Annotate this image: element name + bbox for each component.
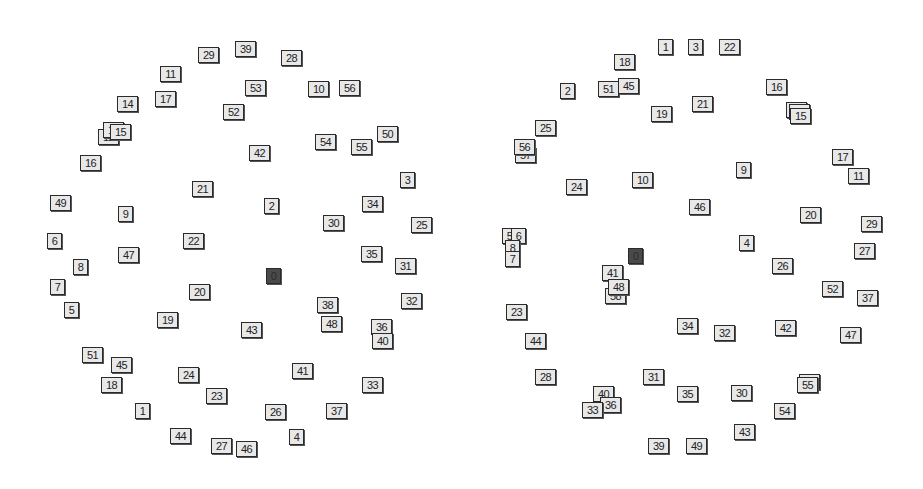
graph-node[interactable]: 40 [372, 333, 393, 349]
graph-node[interactable]: 33 [362, 377, 383, 393]
graph-node[interactable]: 45 [618, 78, 639, 94]
graph-node[interactable]: 26 [265, 404, 286, 420]
graph-node[interactable]: 6 [47, 233, 62, 249]
graph-node[interactable]: 32 [714, 325, 735, 341]
graph-node[interactable]: 15 [110, 124, 131, 140]
graph-node[interactable]: 10 [308, 81, 329, 97]
graph-node[interactable]: 31 [395, 258, 416, 274]
graph-node[interactable]: 18 [101, 377, 122, 393]
graph-node[interactable]: 28 [535, 369, 556, 385]
graph-node[interactable]: 22 [719, 39, 740, 55]
graph-node[interactable]: 39 [235, 41, 256, 57]
graph-node[interactable]: 51 [82, 347, 103, 363]
graph-node[interactable]: 30 [731, 385, 752, 401]
graph-node[interactable]: 19 [157, 312, 178, 328]
graph-node[interactable]: 50 [377, 126, 398, 142]
graph-node[interactable]: 1 [135, 403, 150, 419]
graph-node[interactable]: 16 [80, 155, 101, 171]
graph-node[interactable]: 23 [206, 388, 227, 404]
graph-node[interactable]: 26 [772, 258, 793, 274]
graph-node[interactable]: 49 [50, 195, 71, 211]
graph-node[interactable]: 21 [692, 96, 713, 112]
graph-node[interactable]: 9 [736, 162, 751, 178]
graph-node[interactable]: 10 [632, 172, 653, 188]
graph-node[interactable]: 20 [800, 207, 821, 223]
graph-node[interactable]: 44 [170, 428, 191, 444]
graph-node[interactable]: 3 [688, 39, 703, 55]
graph-node[interactable]: 52 [223, 104, 244, 120]
graph-node[interactable]: 56 [339, 80, 360, 96]
graph-node[interactable]: 47 [118, 247, 139, 263]
graph-node[interactable]: 30 [323, 215, 344, 231]
graph-node[interactable]: 54 [774, 403, 795, 419]
graph-node[interactable]: 8 [73, 259, 88, 275]
graph-node[interactable]: 7 [50, 279, 65, 295]
graph-node[interactable]: 31 [643, 369, 664, 385]
graph-node[interactable]: 17 [155, 91, 176, 107]
graph-node[interactable]: 27 [854, 243, 875, 259]
graph-node[interactable]: 34 [362, 196, 383, 212]
graph-node[interactable]: 55 [797, 377, 818, 393]
graph-node[interactable]: 51 [598, 81, 619, 97]
graph-node[interactable]: 3 [400, 172, 415, 188]
graph-node[interactable]: 54 [315, 134, 336, 150]
graph-node[interactable]: 48 [321, 316, 342, 332]
graph-node[interactable]: 36 [600, 397, 621, 413]
graph-node[interactable]: 1 [658, 39, 673, 55]
graph-node[interactable]: 16 [766, 79, 787, 95]
graph-node[interactable]: 53 [245, 80, 266, 96]
graph-node[interactable]: 25 [411, 217, 432, 233]
graph-node[interactable]: 41 [292, 363, 313, 379]
graph-node[interactable]: 35 [677, 386, 698, 402]
graph-node[interactable]: 25 [535, 120, 556, 136]
graph-node[interactable]: 38 [317, 297, 338, 313]
graph-node[interactable]: 11 [848, 168, 869, 184]
graph-node[interactable]: 34 [677, 318, 698, 334]
graph-node[interactable]: 18 [614, 54, 635, 70]
graph-node[interactable]: 4 [739, 235, 754, 251]
graph-node[interactable]: 52 [822, 281, 843, 297]
graph-node[interactable]: 29 [198, 47, 219, 63]
graph-node[interactable]: 2 [264, 198, 279, 214]
graph-node[interactable]: 24 [566, 179, 587, 195]
graph-node[interactable]: 15 [790, 108, 811, 124]
graph-node[interactable]: 17 [832, 149, 853, 165]
graph-node[interactable]: 43 [241, 322, 262, 338]
graph-node[interactable]: 27 [211, 438, 232, 454]
graph-node[interactable]: 43 [734, 424, 755, 440]
graph-node[interactable]: 14 [117, 96, 138, 112]
graph-node[interactable]: 46 [236, 441, 257, 457]
root-node[interactable]: 0 [266, 268, 281, 284]
root-node[interactable]: 0 [628, 248, 643, 264]
graph-node[interactable]: 23 [506, 304, 527, 320]
graph-node[interactable]: 42 [775, 320, 796, 336]
graph-node[interactable]: 24 [178, 367, 199, 383]
graph-node[interactable]: 19 [651, 106, 672, 122]
graph-node[interactable]: 39 [648, 438, 669, 454]
graph-node[interactable]: 46 [689, 199, 710, 215]
graph-node[interactable]: 49 [686, 438, 707, 454]
graph-node[interactable]: 5 [64, 302, 79, 318]
graph-node[interactable]: 28 [281, 50, 302, 66]
graph-node[interactable]: 37 [326, 403, 347, 419]
graph-node[interactable]: 22 [183, 233, 204, 249]
graph-node[interactable]: 55 [351, 139, 372, 155]
graph-node[interactable]: 42 [249, 145, 270, 161]
graph-node[interactable]: 32 [401, 293, 422, 309]
graph-node[interactable]: 29 [861, 216, 882, 232]
graph-node[interactable]: 33 [582, 402, 603, 418]
graph-node[interactable]: 35 [361, 246, 382, 262]
graph-node[interactable]: 45 [111, 357, 132, 373]
graph-node[interactable]: 4 [289, 429, 304, 445]
graph-node[interactable]: 2 [560, 83, 575, 99]
graph-node[interactable]: 11 [160, 66, 181, 82]
graph-node[interactable]: 44 [525, 333, 546, 349]
graph-node[interactable]: 48 [608, 279, 629, 295]
graph-node[interactable]: 9 [118, 206, 133, 222]
graph-node[interactable]: 47 [840, 327, 861, 343]
graph-node[interactable]: 37 [857, 290, 878, 306]
graph-node[interactable]: 56 [514, 139, 535, 155]
graph-node[interactable]: 21 [192, 181, 213, 197]
graph-node[interactable]: 20 [189, 284, 210, 300]
graph-node[interactable]: 7 [505, 251, 520, 267]
